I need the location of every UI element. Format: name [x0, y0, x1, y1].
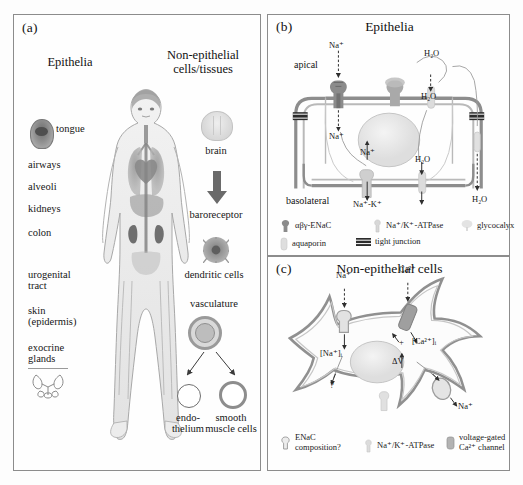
- epithelia-item-glands: glands: [28, 353, 55, 365]
- panel-a-right-heading-line1: Non-epithelial: [150, 48, 256, 62]
- legend-item-c-vgcc: voltage-gated Ca²⁺ channel: [446, 433, 505, 452]
- panel-b: (b) Epithelia: [267, 14, 510, 256]
- ion-label-water-basolateral: H₂O: [415, 155, 430, 164]
- ion-label-water-apical: H₂O: [421, 92, 436, 101]
- ion-label-apical-na-out: Na⁺: [329, 41, 344, 50]
- enac-icon: [280, 219, 291, 233]
- non-epithelial-item-muscle-cells: muscle cells: [194, 423, 268, 435]
- exocrine-divider: [28, 368, 68, 369]
- legend-label-atpase: Na⁺/K⁺-ATPase: [386, 221, 443, 231]
- epithelia-item-epidermis: (epidermis): [28, 316, 76, 328]
- non-epithelial-item-vasculature: vasculature: [190, 298, 260, 310]
- legend-label-c-enac-line2: composition?: [295, 443, 341, 453]
- legend-label-enac: αβγ-ENaC: [295, 221, 331, 231]
- legend-label-aquaporin: aquaporin: [292, 239, 326, 249]
- tongue-illustration: [30, 119, 54, 149]
- panel-a: (a) Epithelia Non-epithelial cells/tissu…: [13, 14, 261, 471]
- epithelia-item-exocrine: exocrine: [28, 342, 64, 354]
- ion-label-water-paracellular: H₂O: [472, 195, 487, 204]
- legend-label-glycocalyx: glycocalyx: [477, 221, 514, 231]
- smooth-muscle-cells-illustration: [219, 381, 247, 409]
- enac-icon: [280, 436, 291, 450]
- ion-label-na-basolateral: Na⁺: [360, 148, 375, 157]
- atpase-icon: [364, 439, 373, 453]
- brain-illustration: [201, 111, 233, 141]
- glycocalyx-icon: [461, 219, 473, 232]
- ion-label-c-ca-out: Ca²⁺: [399, 265, 416, 274]
- legend-label-c-atpase: Na⁺/K⁺-ATPase: [377, 441, 434, 451]
- enac-channel-glycocalyx: [385, 77, 405, 106]
- na-k-atpase-basolateral: [360, 170, 374, 198]
- epithelia-item-kidneys: kidneys: [28, 203, 61, 215]
- tight-junction-right: [469, 112, 484, 120]
- ion-label-c-question: ?: [330, 381, 334, 390]
- tight-junction-icon: [356, 238, 371, 246]
- non-epithelial-item-smooth: smooth: [200, 412, 262, 424]
- ion-label-water-apical-top: H₂O: [424, 49, 439, 58]
- vasculature-illustration: [188, 316, 222, 350]
- non-epithelial-item-brain: brain: [184, 145, 248, 157]
- epithelia-item-urogenital: urogenital: [28, 269, 71, 281]
- apical-label: apical: [294, 59, 318, 70]
- aquaporin-basolateral: [419, 172, 426, 194]
- exocrine-gland-icon: [28, 371, 68, 399]
- aquaporin-lateral-right: [474, 132, 480, 152]
- enac-channel-c: [337, 310, 351, 332]
- tight-junction-left: [293, 112, 308, 120]
- ion-label-c-na-intracellular: [Na⁺]ᵢ: [320, 349, 342, 358]
- epithelia-item-colon: colon: [28, 227, 51, 239]
- legend-item-c-enac: ENaC composition?: [280, 433, 341, 452]
- aquaporin-icon: [280, 237, 288, 251]
- na-k-atpase-c: [379, 392, 388, 411]
- endothelium-illustration: [177, 384, 201, 408]
- legend-label-tight-junction: tight junction: [375, 237, 421, 247]
- ion-label-c-plus: +: [399, 338, 404, 347]
- legend-item-glycocalyx: glycocalyx: [461, 219, 514, 232]
- ion-label-na-k-pump: Na⁺-K⁺: [353, 200, 382, 209]
- epithelia-item-skin: skin: [28, 305, 46, 317]
- legend-item-enac: αβγ-ENaC: [280, 219, 331, 233]
- panel-a-left-heading: Epithelia: [22, 55, 118, 69]
- legend-item-atpase: Na⁺/K⁺-ATPase: [373, 219, 443, 233]
- panel-c: (c) Non-epithelial cells: [267, 256, 510, 471]
- epithelia-item-airways: airways: [28, 159, 61, 171]
- ion-label-c-ca-intracellular: [Ca²⁺]ᵢ: [412, 337, 436, 346]
- ion-label-c-na-lower: Na⁺: [458, 402, 473, 411]
- legend-item-c-atpase: Na⁺/K⁺-ATPase: [364, 439, 434, 453]
- non-epithelial-item-baroreceptor: baroreceptor: [170, 209, 262, 221]
- ion-label-c-delta-v: ΔV: [392, 357, 404, 366]
- vasculature-arrows: [164, 349, 260, 381]
- panel-a-tag: (a): [22, 20, 38, 36]
- basolateral-label: basolateral: [286, 195, 329, 206]
- dendritic-cell-illustration: [203, 237, 229, 263]
- legend-item-aquaporin: aquaporin: [280, 237, 326, 251]
- figure-root: (a) Epithelia Non-epithelial cells/tissu…: [0, 0, 523, 485]
- ion-label-apical-na-in: Na⁺: [329, 132, 344, 141]
- epithelia-item-alveoli: alveoli: [28, 181, 57, 193]
- legend-item-tight-junction: tight junction: [356, 237, 421, 247]
- ion-label-c-na-out: Na⁺: [336, 271, 351, 280]
- non-epithelial-item-dendritic-cells: dendritic cells: [166, 269, 262, 281]
- atpase-icon: [373, 219, 382, 233]
- epithelia-item-tract: tract: [28, 280, 47, 292]
- panel-a-right-heading-line2: cells/tissues: [150, 62, 256, 76]
- baroreceptor-icon: [204, 171, 230, 205]
- epithelia-item-tongue: tongue: [56, 123, 85, 135]
- vgcc-icon: [446, 436, 455, 450]
- legend-label-c-vgcc-line2: Ca²⁺ channel: [459, 443, 505, 453]
